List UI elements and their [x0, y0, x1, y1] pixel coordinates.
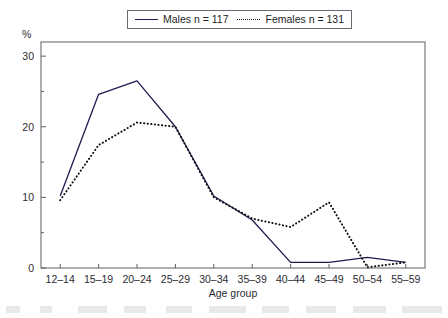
x-tick-label: 25–29	[161, 273, 190, 285]
scan-artifact	[6, 306, 442, 313]
axis-layer	[41, 42, 425, 268]
series-line-males	[60, 81, 406, 263]
y-tick-label: 30	[22, 50, 34, 62]
x-tick-label: 35–39	[238, 273, 267, 285]
plot-frame	[41, 42, 425, 268]
y-tick-label: 10	[22, 191, 34, 203]
x-tick-label: 30–34	[199, 273, 228, 285]
x-tick-label: 20–24	[122, 273, 151, 285]
y-tick-label: 0	[28, 262, 34, 274]
chart-plot-area: 010203012–1415–1920–2425–2930–3435–3940–…	[0, 0, 448, 318]
x-tick-label: 15–19	[84, 273, 113, 285]
chart-figure: Males n = 117 Females n = 131 % 01020301…	[0, 0, 448, 318]
x-axis-title: Age group	[209, 287, 258, 299]
x-tick-label: 40–44	[276, 273, 305, 285]
x-tick-label: 55–59	[391, 273, 420, 285]
x-tick-label: 12–14	[46, 273, 75, 285]
y-tick-label: 20	[22, 121, 34, 133]
series-line-females	[60, 123, 406, 268]
series-layer	[60, 81, 406, 267]
x-tick-label: 50–54	[353, 273, 382, 285]
x-tick-label: 45–49	[314, 273, 343, 285]
